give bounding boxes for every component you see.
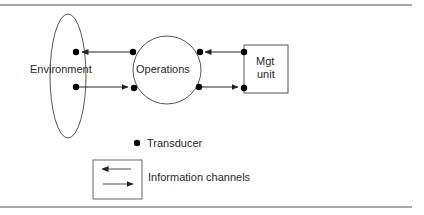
- legend-channels-box: [93, 160, 142, 199]
- transducer-dot: [130, 49, 136, 55]
- legend-channels-label: Information channels: [148, 171, 250, 183]
- mgt-unit-label-line1: Mgt: [256, 55, 274, 67]
- mgt-unit-label-line2: unit: [257, 68, 275, 80]
- transducer-dot: [73, 84, 79, 90]
- transducer-dot: [131, 85, 137, 91]
- transducer-dot: [196, 84, 202, 90]
- transducer-dot: [197, 49, 203, 55]
- legend-transducer-dot-icon: [134, 140, 140, 146]
- operations-label: Operations: [136, 63, 190, 75]
- transducer-dot: [241, 49, 247, 55]
- environment-label: Environment: [30, 63, 92, 75]
- transducer-dot: [241, 85, 247, 91]
- environment-ellipse: [50, 14, 86, 138]
- transducer-dot: [73, 49, 79, 55]
- legend-transducer-label: Transducer: [147, 137, 202, 149]
